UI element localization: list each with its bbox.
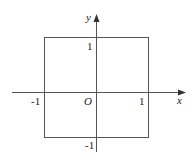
origin-label: O: [84, 95, 92, 107]
y-tick-pos: 1: [87, 40, 93, 52]
x-axis-label: x: [176, 94, 182, 106]
y-tick-neg: -1: [85, 139, 94, 151]
x-tick-neg: -1: [31, 95, 40, 107]
x-tick-pos: 1: [139, 95, 145, 107]
y-axis-arrow-icon: [94, 14, 100, 22]
coordinate-diagram: x y O 1 -1 1 -1: [0, 0, 192, 161]
y-axis-label: y: [85, 11, 91, 23]
